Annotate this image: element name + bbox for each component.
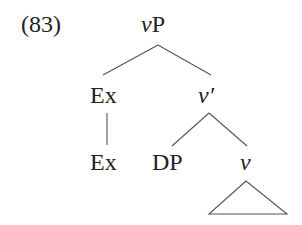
branch-vP-Ex (103, 45, 158, 75)
branch-vbar-v (209, 113, 247, 146)
triangle-icon (209, 181, 287, 214)
tree-branches (0, 0, 302, 225)
branch-vbar-DP (172, 113, 209, 146)
branch-vP-vbar (158, 45, 211, 75)
